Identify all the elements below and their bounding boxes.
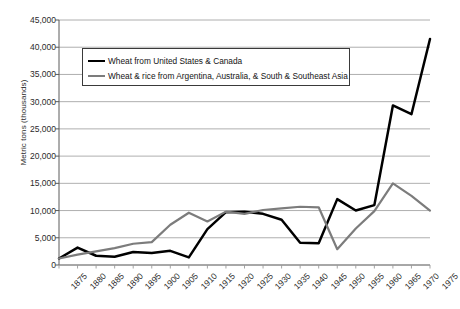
series-line-gray: [59, 183, 430, 258]
legend-swatch-gray-line-icon: [88, 75, 105, 77]
legend-swatch-black-line-icon: [88, 60, 105, 62]
chart-legend: Wheat from United States & Canada Wheat …: [82, 48, 350, 86]
legend-label-argentina-australia-asia: Wheat & rice from Argentina, Australia, …: [108, 71, 348, 81]
legend-label-united-states-canada: Wheat from United States & Canada: [108, 56, 242, 66]
legend-item-gray: Wheat & rice from Argentina, Australia, …: [88, 68, 344, 83]
legend-item-black: Wheat from United States & Canada: [88, 53, 344, 68]
x-tick-label: 1975: [440, 271, 460, 291]
